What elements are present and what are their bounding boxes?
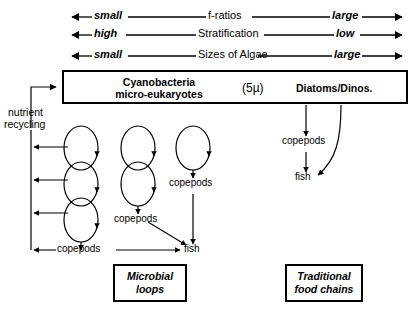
box-size-threshold-label: (5µ) — [242, 82, 264, 95]
node-fish-traditional: fish — [295, 172, 311, 183]
scale-3-left-label: small — [94, 49, 122, 61]
legend-traditional-line1: Traditional — [295, 270, 354, 283]
scale-1-right-label: large — [332, 10, 358, 22]
algae-size-spectrum-box: Cyanobacteria micro-eukaryotes (5µ) Diat… — [62, 70, 408, 104]
legend-microbial-line2: loops — [127, 283, 173, 296]
nutrient-recycling-arrows — [34, 147, 68, 250]
microbial-loop-chain-2 — [121, 126, 155, 214]
node-copepods-chain3: copepods — [169, 178, 212, 189]
scale-2-middle-label: Stratification — [198, 28, 259, 40]
microbial-loop-chain-1 — [64, 126, 98, 250]
nutrient-recycling-label-line1: nutrient — [8, 107, 43, 118]
legend-traditional-line2: food chains — [295, 283, 354, 296]
node-fish-microbial: fish — [184, 244, 200, 255]
node-copepods-traditional: copepods — [282, 136, 325, 147]
scale-1-middle-label: f-ratios — [208, 10, 242, 22]
scale-3-right-label: large — [334, 49, 360, 61]
scale-2-right-label: low — [336, 28, 354, 40]
node-copepods-chain2: copepods — [114, 214, 157, 225]
node-copepods-chain1: copepods — [57, 244, 100, 255]
scale-2-left-label: high — [94, 28, 117, 40]
legend-microbial-loops: Microbial loops — [113, 264, 187, 302]
diagram-canvas: small f-ratios large high Stratification… — [0, 0, 416, 312]
legend-microbial-line1: Microbial — [127, 270, 173, 283]
scale-1-left-label: small — [94, 10, 122, 22]
bottom-food-chain-links — [116, 222, 186, 250]
scale-3-middle-label: Sizes of Algae — [198, 49, 268, 61]
box-right-label: Diatoms/Dinos. — [296, 83, 372, 94]
legend-traditional-food-chains: Traditional food chains — [285, 264, 363, 302]
nutrient-recycling-label-line2: recycling — [4, 119, 45, 130]
box-left-label-line2: micro-eukaryotes — [84, 89, 234, 100]
box-left-label-line1: Cyanobacteria — [84, 77, 234, 88]
